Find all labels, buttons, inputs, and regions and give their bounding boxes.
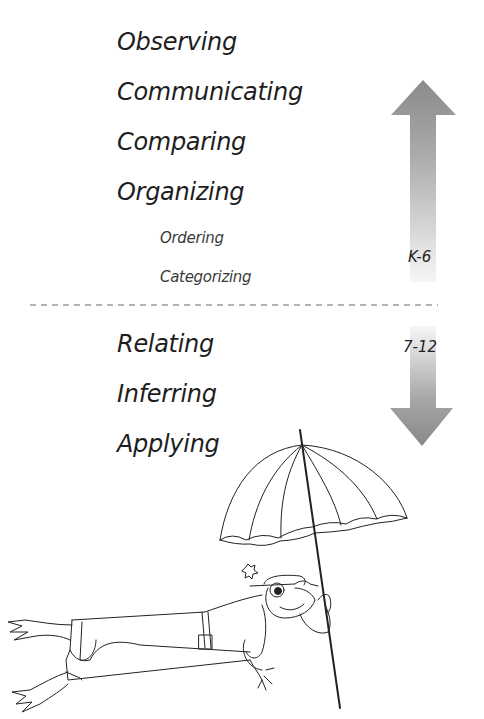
frog-umbrella-illustration xyxy=(0,0,484,719)
frog-icon xyxy=(8,564,331,712)
umbrella-icon xyxy=(220,430,407,708)
